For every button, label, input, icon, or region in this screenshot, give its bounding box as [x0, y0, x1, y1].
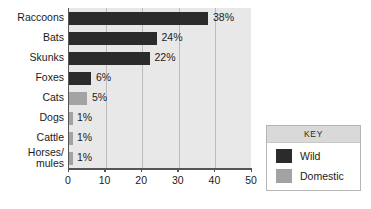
legend-swatch-domestic-icon — [276, 169, 292, 183]
category-label: Cattle — [0, 132, 64, 143]
x-tick-20 — [141, 168, 143, 172]
category-label: Foxes — [0, 72, 64, 83]
category-label: Skunks — [0, 52, 64, 63]
legend: KEY Wild Domestic — [266, 125, 361, 191]
bar-dogs — [69, 112, 73, 125]
bar-value-label: 38% — [213, 11, 234, 24]
x-tick-50 — [251, 168, 253, 172]
x-tick-0 — [68, 168, 70, 172]
bar-value-label: 1% — [77, 111, 92, 124]
bar-raccoons — [69, 12, 208, 25]
bar-row: Raccoons 38% — [0, 8, 371, 28]
bar-cattle — [69, 132, 73, 145]
legend-item-domestic: Domestic — [276, 169, 360, 183]
bar-row: Skunks 22% — [0, 48, 371, 68]
legend-label: Domestic — [300, 170, 344, 182]
bar-bats — [69, 32, 157, 45]
x-tick-label: 20 — [135, 174, 147, 186]
x-tick-label: 30 — [172, 174, 184, 186]
category-label: Raccoons — [0, 12, 64, 23]
x-tick-10 — [104, 168, 106, 172]
category-label: Horses/ mules — [0, 147, 64, 168]
legend-label: Wild — [300, 150, 320, 162]
bar-chart: Raccoons 38% Bats 24% Skunks 22% Foxes 6… — [0, 0, 371, 209]
bar-row: Cats 5% — [0, 88, 371, 108]
legend-title: KEY — [267, 126, 360, 143]
x-tick-label: 50 — [245, 174, 257, 186]
bar-value-label: 1% — [77, 151, 92, 164]
x-tick-label: 10 — [99, 174, 111, 186]
bar-value-label: 1% — [77, 131, 92, 144]
bar-value-label: 24% — [162, 31, 183, 44]
bar-value-label: 6% — [96, 71, 111, 84]
category-label: Bats — [0, 32, 64, 43]
category-label: Cats — [0, 92, 64, 103]
bar-cats — [69, 92, 87, 105]
category-label-line2: mules — [0, 158, 64, 169]
x-axis-line — [68, 168, 251, 170]
x-tick-40 — [214, 168, 216, 172]
legend-body: Wild Domestic — [267, 143, 360, 190]
x-tick-label: 0 — [65, 174, 71, 186]
bar-row: Bats 24% — [0, 28, 371, 48]
x-tick-label: 40 — [209, 174, 221, 186]
bar-value-label: 22% — [155, 51, 176, 64]
x-tick-30 — [177, 168, 179, 172]
bar-horses-mules — [69, 152, 73, 165]
bar-skunks — [69, 52, 150, 65]
bar-row: Foxes 6% — [0, 68, 371, 88]
category-label: Dogs — [0, 112, 64, 123]
bar-value-label: 5% — [92, 91, 107, 104]
bar-foxes — [69, 72, 91, 85]
legend-item-wild: Wild — [276, 149, 360, 163]
legend-swatch-wild-icon — [276, 149, 292, 163]
